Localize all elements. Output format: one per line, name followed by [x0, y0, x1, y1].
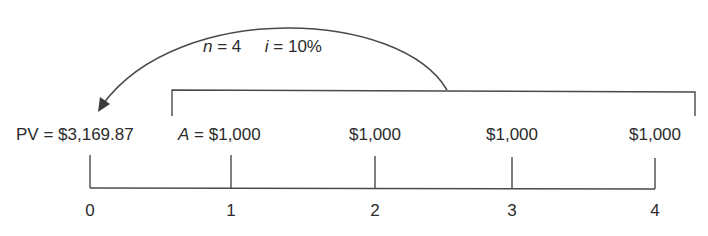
annuity-bracket	[172, 90, 695, 116]
arrow-head-icon	[98, 97, 110, 112]
period-3: 3	[507, 202, 516, 219]
params-label: n = 4 i = 10%	[203, 38, 322, 55]
payment-2: $1,000	[349, 126, 401, 143]
payment-3: $1,000	[486, 126, 538, 143]
n-value: = 4	[212, 37, 241, 56]
a-variable: A	[178, 125, 189, 144]
period-0: 0	[85, 202, 94, 219]
timeline-axis	[90, 188, 655, 189]
pv-label: PV = $3,169.87	[16, 126, 134, 143]
period-2: 2	[370, 202, 379, 219]
timeline-diagram	[0, 0, 708, 236]
period-4: 4	[650, 202, 659, 219]
annuity-label: A = $1,000	[178, 126, 261, 143]
i-value: = 10%	[269, 37, 322, 56]
a-value: = $1,000	[189, 125, 260, 144]
payment-4: $1,000	[629, 126, 681, 143]
period-1: 1	[226, 202, 235, 219]
